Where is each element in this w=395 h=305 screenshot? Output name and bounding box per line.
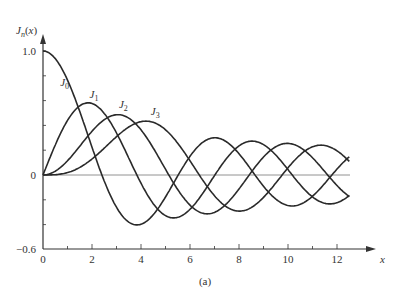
x-tick-label: 0 <box>40 253 46 265</box>
x-tick-label: 10 <box>283 253 295 265</box>
y-axis-arrow-icon <box>40 34 46 44</box>
curves <box>43 51 349 225</box>
x-tick-label: 4 <box>138 253 144 265</box>
series-annotation: J0 <box>60 76 69 91</box>
x-tick-label: 2 <box>89 253 95 265</box>
x-axis-arrow-icon <box>366 246 376 252</box>
series-J2 <box>43 115 349 214</box>
x-tick-label: 8 <box>236 253 242 265</box>
x-tick-label: 12 <box>332 253 343 265</box>
y-axis-label: Jn(x) <box>16 24 37 39</box>
caption: (a) <box>199 275 212 288</box>
series-J0 <box>43 51 349 225</box>
x-axis-label: x <box>379 253 385 265</box>
x-tick-label: 6 <box>187 253 193 265</box>
bessel-chart: 0246810121.00−0.6xJn(x)(a)J0J1J2J3 <box>0 0 395 305</box>
series-annotation: J3 <box>151 105 160 120</box>
series-annotation: J1 <box>90 88 99 103</box>
series-annotation: J2 <box>119 98 128 113</box>
y-tick-label: 0 <box>31 169 37 181</box>
y-tick-label: 1.0 <box>22 45 36 57</box>
y-tick-label: −0.6 <box>16 243 36 255</box>
